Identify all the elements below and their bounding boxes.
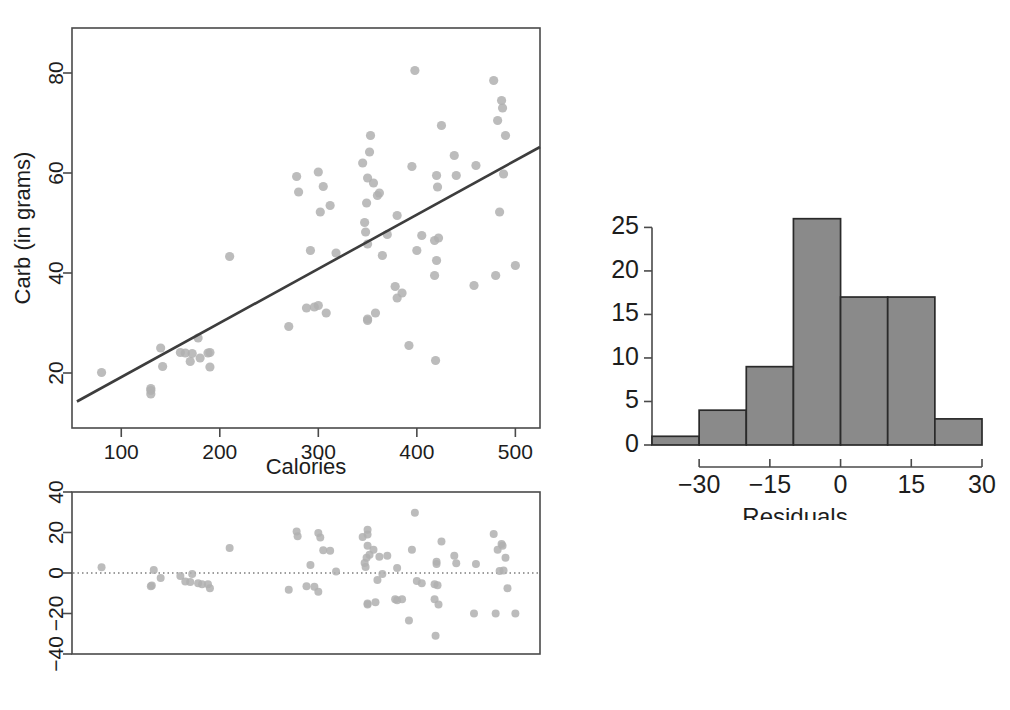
histogram-chart: 0510152025 −30−1501530 Residuals	[580, 190, 1010, 520]
scatter-point	[156, 343, 165, 352]
residual-point	[411, 509, 419, 517]
residual-point	[375, 553, 383, 561]
residual-point	[418, 579, 426, 587]
residual-point	[437, 538, 445, 546]
residual-panel: −40−2002040	[0, 478, 560, 710]
histogram-x-axis: −30−1501530	[678, 459, 996, 498]
scatter-data-points	[97, 66, 520, 399]
residual-point	[369, 546, 377, 554]
scatter-point	[314, 167, 323, 176]
scatter-point	[489, 76, 498, 85]
scatter-point	[358, 158, 367, 167]
scatter-x-tick-label: 500	[498, 440, 533, 463]
residual-data-points	[98, 509, 520, 640]
residual-point	[362, 563, 370, 571]
scatter-point	[292, 172, 301, 181]
scatter-point	[360, 218, 369, 227]
residual-point	[503, 584, 511, 592]
residual-point	[393, 564, 401, 572]
scatter-point	[432, 171, 441, 180]
residual-point	[226, 544, 234, 552]
residual-y-tick-label: 40	[44, 480, 67, 503]
scatter-point	[378, 251, 387, 260]
residual-point	[206, 584, 214, 592]
residual-point	[490, 530, 498, 538]
residual-point	[435, 600, 443, 608]
scatter-point	[491, 271, 500, 280]
residual-point	[326, 547, 334, 555]
residual-point	[314, 588, 322, 596]
histogram-y-tick-label: 5	[625, 385, 639, 413]
histogram-x-tick-label: −15	[749, 470, 791, 498]
residual-point	[98, 563, 106, 571]
residual-point	[470, 610, 478, 618]
histogram-x-axis-label: Residuals	[742, 503, 847, 520]
residual-point	[452, 559, 460, 567]
residual-point	[398, 595, 406, 603]
scatter-point	[375, 188, 384, 197]
residual-point	[157, 574, 165, 582]
scatter-point	[450, 151, 459, 160]
scatter-point	[205, 362, 214, 371]
scatter-x-tick-label: 100	[104, 440, 139, 463]
residual-y-tick-label: −40	[44, 636, 67, 672]
scatter-point	[366, 131, 375, 140]
scatter-x-tick-label: 400	[399, 440, 434, 463]
residual-point	[148, 582, 156, 590]
scatter-y-tick-label: 80	[44, 61, 67, 84]
regression-line-segment	[77, 147, 540, 402]
histogram-bar	[652, 436, 699, 445]
histogram-x-tick-label: 30	[968, 470, 996, 498]
histogram-bars	[652, 219, 982, 445]
histogram-bar	[699, 410, 746, 445]
residual-y-tick-label: 20	[44, 521, 67, 544]
residual-point	[432, 632, 440, 640]
scatter-x-tick-label: 200	[202, 440, 237, 463]
residual-point	[405, 617, 413, 625]
histogram-y-tick-label: 10	[611, 342, 639, 370]
scatter-point	[431, 356, 440, 365]
scatter-point	[495, 207, 504, 216]
scatter-point	[97, 368, 106, 377]
scatter-y-axis-ticks: 20406080	[44, 61, 72, 384]
scatter-point	[363, 314, 372, 323]
scatter-point	[365, 147, 374, 156]
scatter-point	[302, 303, 311, 312]
histogram-x-tick-label: 15	[897, 470, 925, 498]
scatter-y-tick-label: 20	[44, 361, 67, 384]
scatter-point	[412, 246, 421, 255]
residual-y-tick-label: −20	[44, 596, 67, 632]
scatter-point	[499, 169, 508, 178]
histogram-x-tick-label: −30	[678, 470, 720, 498]
residual-point	[502, 554, 510, 562]
scatter-point	[498, 103, 507, 112]
residual-point	[472, 560, 480, 568]
scatter-point	[322, 308, 331, 317]
residual-point	[371, 598, 379, 606]
scatter-y-tick-label: 40	[44, 261, 67, 284]
scatter-point	[501, 131, 510, 140]
residual-point	[294, 532, 302, 540]
scatter-point	[433, 182, 442, 191]
scatter-point	[294, 187, 303, 196]
residual-y-axis-ticks: −40−2002040	[44, 480, 72, 671]
residual-point	[285, 586, 293, 594]
residual-point	[378, 570, 386, 578]
scatter-point	[146, 384, 155, 393]
histogram-bar	[841, 297, 888, 445]
scatter-point	[225, 252, 234, 261]
scatter-y-tick-label: 60	[44, 161, 67, 184]
regression-line	[77, 147, 540, 402]
scatter-point	[434, 233, 443, 242]
histogram-x-tick-label: 0	[834, 470, 848, 498]
histogram-y-tick-label: 15	[611, 298, 639, 326]
scatter-point	[404, 341, 413, 350]
scatter-plot-frame	[72, 28, 540, 428]
scatter-point	[371, 308, 380, 317]
scatter-y-axis-label: Carb (in grams)	[10, 152, 35, 305]
histogram-bar	[793, 219, 840, 445]
residual-point	[500, 567, 508, 575]
residual-point	[434, 581, 442, 589]
residual-point	[383, 552, 391, 560]
scatter-chart: 20406080 100200300400500 Carb (in grams)…	[0, 0, 560, 478]
